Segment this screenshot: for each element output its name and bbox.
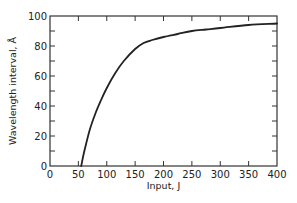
x-tick-label: 300 bbox=[211, 169, 230, 180]
x-axis-ticks bbox=[78, 16, 248, 166]
x-tick-label: 200 bbox=[154, 169, 173, 180]
data-curve bbox=[81, 24, 277, 167]
plot-frame bbox=[50, 16, 277, 166]
y-axis-label: Wavelength interval, Å bbox=[7, 36, 18, 145]
y-axis-ticks bbox=[50, 31, 277, 151]
x-tick-label: 0 bbox=[47, 169, 53, 180]
y-tick-label: 20 bbox=[34, 131, 47, 142]
y-tick-label: 100 bbox=[28, 11, 47, 22]
y-tick-label: 60 bbox=[34, 71, 47, 82]
y-tick-label: 40 bbox=[34, 101, 47, 112]
x-tick-label: 50 bbox=[72, 169, 85, 180]
x-tick-label: 100 bbox=[97, 169, 116, 180]
x-axis-label: Input, J bbox=[147, 180, 180, 191]
x-tick-label: 350 bbox=[239, 169, 258, 180]
x-tick-label: 150 bbox=[126, 169, 145, 180]
y-axis-tick-labels: 020406080100 bbox=[28, 11, 47, 172]
y-tick-label: 80 bbox=[34, 41, 47, 52]
chart: 050100150200250300350400 020406080100 In… bbox=[0, 0, 297, 203]
x-tick-label: 400 bbox=[267, 169, 286, 180]
x-tick-label: 250 bbox=[182, 169, 201, 180]
x-axis-tick-labels: 050100150200250300350400 bbox=[47, 169, 287, 180]
y-tick-label: 0 bbox=[41, 161, 47, 172]
